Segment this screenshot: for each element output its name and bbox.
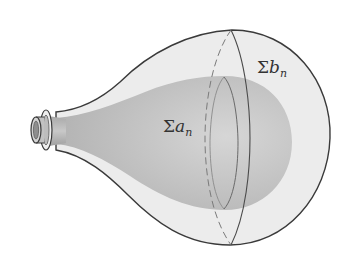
- inner-series-label: Σan: [163, 118, 192, 138]
- series-variable: b: [269, 57, 280, 77]
- outer-series-label: Σbn: [257, 59, 287, 79]
- series-subscript: n: [185, 126, 192, 139]
- sigma-symbol: Σ: [257, 57, 269, 77]
- sigma-symbol: Σ: [163, 116, 175, 136]
- series-variable: a: [175, 116, 185, 136]
- mouth-hole: [33, 121, 38, 139]
- series-subscript: n: [280, 67, 287, 80]
- inner-balloon: [56, 76, 292, 210]
